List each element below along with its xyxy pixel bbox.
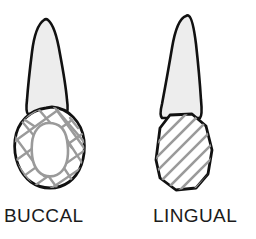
label-buccal: BUCCAL xyxy=(4,206,83,225)
tooth-illustration xyxy=(0,0,256,239)
tooth-diagram-figure: BUCCAL LINGUAL xyxy=(0,0,256,239)
tooth-buccal-inner-oval xyxy=(32,123,68,176)
tooth-buccal xyxy=(8,19,90,200)
tooth-lingual-root xyxy=(161,15,202,118)
tooth-lingual xyxy=(140,15,226,212)
tooth-buccal-root xyxy=(26,19,67,114)
label-lingual: LINGUAL xyxy=(153,206,237,225)
